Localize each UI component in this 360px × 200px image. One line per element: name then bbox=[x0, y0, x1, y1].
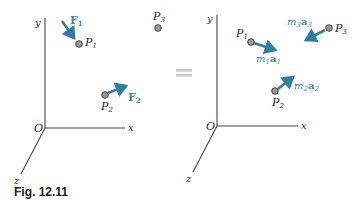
point-p2 bbox=[272, 88, 279, 95]
point-p2-label: P2 bbox=[100, 100, 113, 114]
inertia-arrow-m2a2 bbox=[278, 77, 293, 89]
m2a2-label: m2a2 bbox=[294, 80, 319, 93]
left-particle-p1: P1 F1 bbox=[62, 14, 97, 50]
left-particle-p2: P2 F2 bbox=[100, 86, 141, 114]
m3a3-label: m3a3 bbox=[287, 16, 312, 29]
point-p1 bbox=[248, 39, 255, 46]
inertia-arrow-m3a3 bbox=[306, 30, 325, 40]
right-y-label: y bbox=[206, 13, 213, 24]
right-z-label: z bbox=[185, 173, 192, 184]
right-particle-p3: P3 m3a3 bbox=[287, 16, 347, 40]
point-p1-label: P1 bbox=[235, 27, 248, 41]
left-y-label: y bbox=[34, 17, 41, 28]
right-panel: y x z O P1 m1a1 P2 m2a2 P3 m3a3 bbox=[185, 13, 347, 184]
point-p3 bbox=[326, 25, 333, 32]
force-arrow-f2 bbox=[108, 86, 126, 93]
point-p3-label: P3 bbox=[334, 22, 347, 36]
m1a1-label: m1a1 bbox=[256, 53, 281, 66]
right-particle-p1: P1 m1a1 bbox=[235, 27, 281, 66]
figure-canvas: y x z O P1 F1 P2 F2 P3 bbox=[0, 0, 360, 200]
left-particle-p3: P3 bbox=[152, 10, 165, 31]
inertia-arrow-m1a1 bbox=[254, 43, 275, 50]
left-panel: y x z O P1 F1 P2 F2 P3 bbox=[13, 10, 165, 186]
point-p2 bbox=[102, 92, 109, 99]
right-origin-label: O bbox=[206, 120, 215, 133]
point-p3 bbox=[155, 25, 162, 32]
left-axes: y x z O bbox=[13, 17, 134, 186]
figure-caption: Fig. 12.11 bbox=[14, 185, 68, 199]
equals-sign bbox=[176, 69, 192, 77]
point-p1 bbox=[76, 41, 83, 48]
right-x-label: x bbox=[301, 120, 307, 131]
point-p3-label: P3 bbox=[152, 10, 165, 24]
force-f1-label: F1 bbox=[70, 14, 83, 28]
left-x-label: x bbox=[128, 122, 134, 133]
right-particle-p2: P2 m2a2 bbox=[271, 77, 319, 110]
point-p2-label: P2 bbox=[271, 96, 284, 110]
left-origin-label: O bbox=[34, 122, 43, 135]
force-f2-label: F2 bbox=[128, 91, 141, 105]
point-p1-label: P1 bbox=[84, 36, 97, 50]
